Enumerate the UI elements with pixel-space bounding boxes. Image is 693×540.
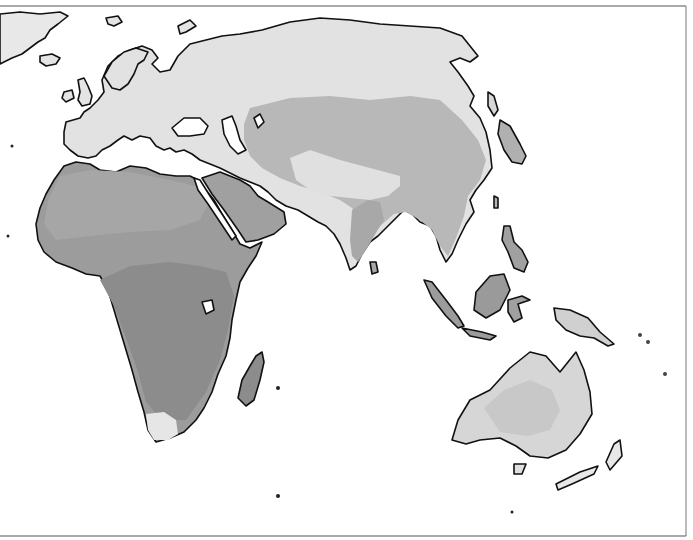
iceland <box>40 54 60 66</box>
island-dot <box>276 386 280 390</box>
central-africa-zone <box>100 262 234 420</box>
ireland <box>62 90 74 102</box>
sri-lanka <box>370 262 378 274</box>
new-zealand-north <box>606 440 622 470</box>
map-frame <box>0 0 693 540</box>
japan <box>498 120 526 164</box>
new-guinea <box>554 308 614 346</box>
sumatra <box>424 280 464 328</box>
great-britain <box>78 78 92 106</box>
island-dot <box>7 235 10 238</box>
taiwan <box>494 196 498 208</box>
sulawesi <box>508 296 530 322</box>
madagascar <box>238 352 264 406</box>
borneo <box>474 274 510 318</box>
island-dot <box>276 494 280 498</box>
island-dot <box>11 145 14 148</box>
new-zealand-south <box>556 466 598 490</box>
novaya-zemlya <box>178 20 196 34</box>
island-dot <box>663 372 667 376</box>
island-dot <box>646 340 650 344</box>
world-map <box>0 0 693 540</box>
island-dot <box>638 333 642 337</box>
sakhalin <box>488 92 498 116</box>
island-dot <box>511 511 514 514</box>
java <box>462 328 496 340</box>
philippines <box>502 226 528 272</box>
svalbard <box>106 16 122 26</box>
tasmania <box>514 464 526 474</box>
